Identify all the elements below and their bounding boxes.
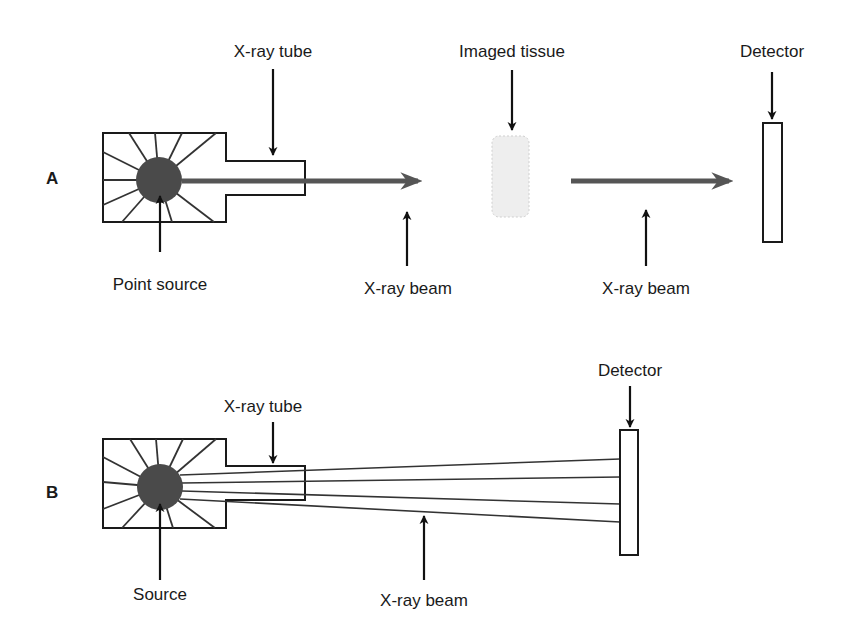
label-source: Source bbox=[133, 585, 187, 604]
imaged-tissue-icon bbox=[492, 136, 529, 217]
label-xray-tube-a: X-ray tube bbox=[234, 42, 312, 61]
label-detector-a: Detector bbox=[740, 42, 805, 61]
detector-a bbox=[763, 123, 782, 242]
detector-b bbox=[620, 430, 638, 555]
source-icon bbox=[137, 464, 183, 510]
panel-b: B D bbox=[46, 361, 662, 610]
diverging-rays bbox=[180, 459, 620, 522]
panel-b-label: B bbox=[46, 483, 58, 502]
label-detector-b: Detector bbox=[598, 361, 663, 380]
label-xray-beam-a1: X-ray beam bbox=[364, 279, 452, 298]
label-xray-beam-b: X-ray beam bbox=[380, 591, 468, 610]
panel-a-label: A bbox=[46, 169, 58, 188]
label-xray-tube-b: X-ray tube bbox=[224, 397, 302, 416]
panel-a: A X-ray tub bbox=[46, 42, 804, 298]
xray-tube-b bbox=[103, 439, 620, 528]
label-point-source: Point source bbox=[113, 275, 208, 294]
xray-tube-a bbox=[103, 133, 305, 222]
xray-diagram: A X-ray tub bbox=[0, 0, 854, 631]
label-xray-beam-a2: X-ray beam bbox=[602, 279, 690, 298]
label-imaged-tissue: Imaged tissue bbox=[459, 42, 565, 61]
